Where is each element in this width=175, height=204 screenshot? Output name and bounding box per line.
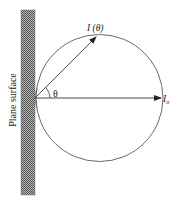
intensity-normal-label: Io <box>162 94 169 105</box>
angle-label: θ <box>53 88 58 99</box>
plane-surface-label: Plane surface <box>7 73 18 127</box>
intensity-angle-label: I (θ) <box>86 23 104 34</box>
lambert-cosine-diagram: θ I (θ) Io Plane surface <box>0 0 175 204</box>
plane-surface <box>21 10 35 195</box>
angle-arc <box>46 87 50 98</box>
